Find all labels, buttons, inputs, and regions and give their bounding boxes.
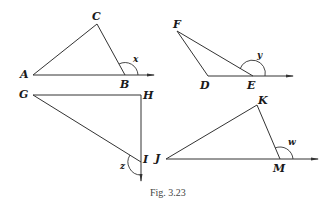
segment-fd [177, 31, 208, 76]
segment-jk [166, 105, 257, 159]
vertex-label-i: I [142, 153, 149, 166]
triangle-def: F D E y [172, 18, 293, 92]
vertex-label-e: E [246, 79, 256, 92]
segment-cb [97, 24, 125, 75]
angle-label-x: x [132, 54, 139, 64]
segment-gi [33, 95, 141, 162]
angle-arc-y [240, 60, 265, 76]
vertex-label-a: A [19, 68, 29, 81]
vertex-label-j: J [153, 152, 161, 165]
vertex-label-d: D [199, 79, 210, 92]
vertex-label-b: B [119, 78, 129, 91]
vertex-label-f: F [172, 18, 182, 31]
angle-label-y: y [256, 50, 263, 60]
vertex-label-c: C [92, 10, 101, 23]
vertex-label-h: H [142, 89, 154, 102]
angle-label-z: z [119, 161, 126, 171]
triangle-ghi: G H I z [19, 88, 154, 181]
segment-km [257, 105, 280, 159]
angle-label-w: w [288, 137, 296, 147]
segment-fe [177, 31, 253, 76]
vertex-label-g: G [19, 88, 28, 101]
figure-caption: Fig. 3.23 [150, 187, 186, 198]
vertex-label-m: M [272, 162, 286, 175]
triangle-jkm: J K M w [153, 94, 318, 175]
triangle-abc: A C B x [19, 10, 154, 91]
figure-3-23: A C B x F D E y G H I z J K M w Fig. 3.2… [0, 0, 333, 202]
vertex-label-k: K [257, 94, 268, 107]
segment-ac [33, 24, 97, 75]
